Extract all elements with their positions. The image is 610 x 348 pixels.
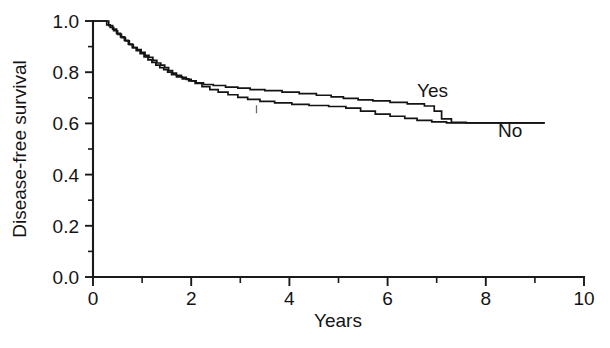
x-axis-tick-labels: 0246810 (88, 288, 595, 309)
x-tick-label: 6 (382, 288, 393, 309)
survival-curve-no (93, 21, 545, 123)
y-tick-label: 0.0 (53, 267, 79, 288)
survival-curves (93, 21, 545, 123)
kaplan-meier-figure: 0.00.20.40.60.81.0 0246810 Disease-free … (0, 0, 610, 348)
x-tick-label: 0 (88, 288, 99, 309)
y-axis-ticks (85, 21, 93, 277)
y-tick-label: 0.8 (53, 62, 79, 83)
x-tick-label: 8 (481, 288, 492, 309)
x-tick-label: 10 (573, 288, 594, 309)
y-tick-label: 0.4 (53, 165, 80, 186)
y-tick-label: 0.6 (53, 113, 79, 134)
y-axis-tick-labels: 0.00.20.40.60.81.0 (53, 11, 80, 288)
survival-curve-yes (93, 21, 545, 123)
x-tick-label: 2 (186, 288, 197, 309)
plot-axes (93, 21, 584, 277)
x-axis-ticks (93, 277, 584, 286)
y-tick-label: 1.0 (53, 11, 79, 32)
series-label-yes: Yes (417, 80, 448, 101)
x-axis-title: Years (314, 310, 362, 331)
y-tick-label: 0.2 (53, 216, 79, 237)
y-axis-title: Disease-free survival (9, 60, 30, 237)
x-tick-label: 4 (284, 288, 295, 309)
series-labels: YesNo (417, 80, 522, 142)
survival-chart: 0.00.20.40.60.81.0 0246810 Disease-free … (0, 0, 610, 348)
series-label-no: No (498, 120, 522, 141)
